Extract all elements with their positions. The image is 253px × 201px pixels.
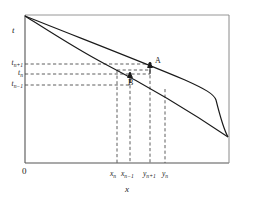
x-tick-label-y-n-plus-1: yn+1 [143, 170, 156, 178]
x-tick-sub-x-n-minus-1: n−1 [124, 173, 133, 179]
point-label-B: B [128, 79, 133, 87]
point-label-A: A [155, 57, 161, 65]
x-axis-label: x [125, 185, 129, 194]
x-tick-sub-y-n-plus-1: n+1 [146, 173, 155, 179]
y-tick-sub-t-n-minus-1: n−1 [14, 83, 23, 89]
x-tick-label-y-n: yn [162, 170, 168, 178]
curves [25, 16, 228, 137]
y-tick-label-t-n-plus-1: tn+1 [0, 59, 23, 67]
y-axis-label: t [12, 26, 15, 35]
figure-container: t tn+1 tn tn−1 0 xn xn−1 yn+1 yn x A B [0, 0, 253, 201]
axis-frame [25, 15, 229, 163]
origin-label: 0 [22, 167, 27, 176]
lower-curve [25, 16, 228, 137]
y-tick-sub-t-n: n [20, 72, 23, 78]
marker-point-B [129, 72, 132, 75]
upper-curve [25, 16, 228, 137]
x-tick-label-x-n-minus-1: xn−1 [121, 170, 134, 178]
y-tick-label-t-n: tn [0, 69, 23, 77]
marker-point-A [149, 62, 152, 65]
x-tick-label-x-n: xn [110, 170, 116, 178]
x-tick-sub-x-n: n [113, 173, 116, 179]
x-tick-sub-y-n: n [165, 173, 168, 179]
vertical-dashed-lines [117, 64, 165, 163]
y-tick-label-t-n-minus-1: tn−1 [0, 80, 23, 88]
